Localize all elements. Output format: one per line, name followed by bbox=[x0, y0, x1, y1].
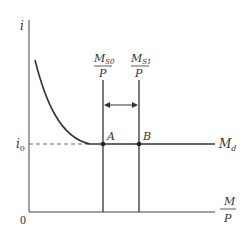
arrow-head-left bbox=[104, 102, 110, 108]
supply0-denominator: P bbox=[98, 67, 107, 80]
liquidity-trap-diagram: i 0 i0 A B Md MS0 P MS1 P M P bbox=[0, 0, 247, 237]
money-demand-label: Md bbox=[218, 137, 236, 153]
point-a-dot bbox=[101, 142, 106, 147]
money-demand-curve bbox=[35, 60, 215, 144]
origin-label: 0 bbox=[20, 213, 26, 227]
point-a-label: A bbox=[106, 130, 115, 143]
x-axis-label-numerator: M bbox=[223, 195, 236, 208]
point-b-label: B bbox=[142, 130, 151, 143]
supply0-numerator: MS0 bbox=[93, 52, 115, 66]
arrow-head-right bbox=[132, 102, 138, 108]
supply1-numerator: MS1 bbox=[130, 52, 152, 66]
point-b-dot bbox=[137, 142, 142, 147]
x-axis-label-denominator: P bbox=[223, 212, 232, 225]
supply1-denominator: P bbox=[134, 67, 143, 80]
i0-label: i0 bbox=[16, 137, 25, 153]
y-axis-label: i bbox=[20, 19, 24, 33]
